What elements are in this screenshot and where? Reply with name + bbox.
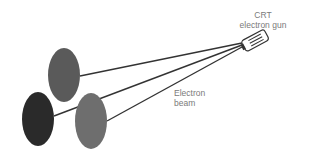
electron-gun-icon	[239, 29, 269, 53]
beam-to-right-dot	[107, 47, 242, 121]
beam-to-top-dot	[80, 43, 242, 76]
top-phosphor-dot	[48, 48, 80, 102]
left-phosphor-dot	[22, 92, 54, 146]
right-phosphor-dot	[75, 93, 107, 149]
beam-label-line1: Electron	[174, 88, 224, 98]
crt-label-line1: CRT	[238, 10, 288, 20]
crt-label-line2: electron gun	[238, 20, 288, 30]
beam-label-line2: beam	[174, 98, 224, 108]
crt-gun-label: CRT electron gun	[238, 10, 288, 30]
electron-beam-label: Electron beam	[174, 88, 224, 108]
